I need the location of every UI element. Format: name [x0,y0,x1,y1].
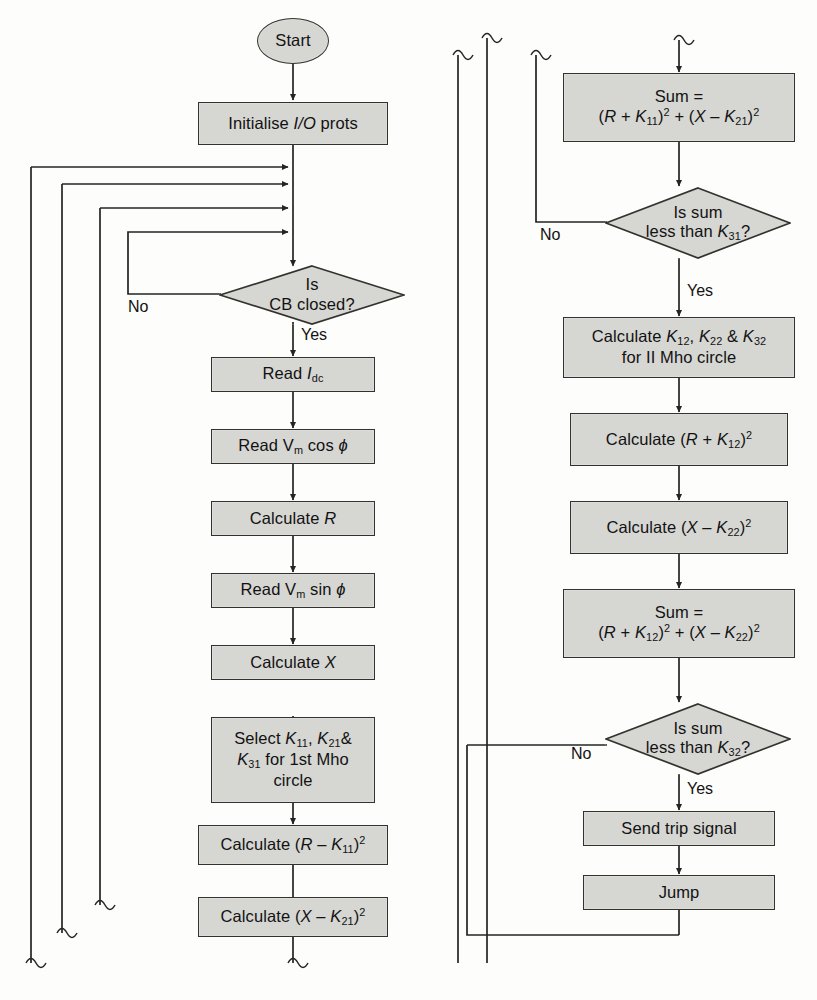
node-calculate-x-minus-k21-squared-label: Calculate (X – K21)2 [221,906,366,928]
node-select-k-first-mho-label: Select K11, K21& K31 for 1st Mho circle [234,729,352,790]
node-calculate-x-label: Calculate X [250,653,335,672]
node-calculate-r-plus-k12-squared: Calculate (R + K12)2 [570,413,788,466]
node-read-vm-sin-phi-label: Read Vm sin ϕ [241,580,346,601]
node-initialise-io-ports: Initialise I/O prots [198,102,388,145]
node-send-trip-signal: Send trip signal [583,811,775,846]
node-select-k-first-mho: Select K11, K21& K31 for 1st Mho circle [211,717,375,803]
connector-lines [0,0,817,1000]
node-calculate-k-second-mho-label: Calculate K12, K22 & K32 for II Mho circ… [592,327,766,367]
node-read-idc: Read Idc [211,357,375,392]
node-read-idc-label: Read Idc [263,364,324,385]
node-sum-first-circle: Sum = (R + K11)2 + (X – K21)2 [563,73,795,142]
node-calculate-r: Calculate R [211,501,375,536]
node-sum-second-circle: Sum = (R + K12)2 + (X – K22)2 [563,589,795,658]
node-read-vm-cos-phi: Read Vm cos ϕ [211,429,375,464]
edge-label-sum2-yes: Yes [687,780,713,798]
node-calculate-r-minus-k11-squared-label: Calculate (R – K11)2 [220,834,365,856]
node-calculate-r-label: Calculate R [250,509,336,528]
edge-label-sum1-yes: Yes [687,282,713,300]
node-calculate-k-second-mho: Calculate K12, K22 & K32 for II Mho circ… [563,317,795,378]
node-start-label: Start [275,31,310,50]
edge-label-sum2-no: No [571,745,591,763]
node-initialise-io-ports-label: Initialise I/O prots [228,114,357,133]
node-calculate-x: Calculate X [211,645,375,680]
node-calculate-x-minus-k22-squared: Calculate (X – K22)2 [570,501,788,554]
node-sum-first-circle-label: Sum = (R + K11)2 + (X – K21)2 [599,87,760,128]
flowchart-canvas: Start Initialise I/O prots Is CB closed?… [0,0,817,1000]
node-read-vm-sin-phi: Read Vm sin ϕ [211,573,375,608]
edge-label-cb-yes: Yes [301,326,327,344]
node-start: Start [257,18,329,64]
node-calculate-x-minus-k22-squared-label: Calculate (X – K22)2 [607,517,752,539]
node-jump-label: Jump [659,883,700,902]
node-sum-second-circle-label: Sum = (R + K12)2 + (X – K22)2 [598,603,760,644]
node-jump: Jump [583,875,775,910]
node-read-vm-cos-phi-label: Read Vm cos ϕ [238,436,347,457]
edge-label-sum1-no: No [540,226,560,244]
edge-label-cb-no: No [128,298,148,316]
node-calculate-r-minus-k11-squared: Calculate (R – K11)2 [198,825,388,865]
node-send-trip-signal-label: Send trip signal [621,819,736,838]
node-calculate-r-plus-k12-squared-label: Calculate (R + K12)2 [606,429,752,451]
node-calculate-x-minus-k21-squared: Calculate (X – K21)2 [198,897,388,937]
